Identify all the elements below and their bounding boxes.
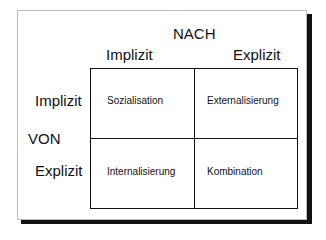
nach-label: NACH bbox=[173, 25, 216, 42]
column-header-explizit: Explizit bbox=[233, 46, 281, 63]
von-label: VON bbox=[28, 130, 61, 147]
cell-sozialisation: Sozialisation bbox=[107, 95, 163, 106]
row-header-explizit: Explizit bbox=[35, 162, 83, 179]
cell-kombination: Kombination bbox=[207, 166, 263, 177]
cell-externalisierung: Externalisierung bbox=[207, 95, 279, 106]
column-header-implizit: Implizit bbox=[106, 46, 153, 63]
cell-internalisierung: Internalisierung bbox=[107, 166, 175, 177]
row-header-implizit: Implizit bbox=[35, 92, 82, 109]
grid-divider-horizontal bbox=[91, 138, 297, 139]
matrix-grid: Sozialisation Externalisierung Internali… bbox=[90, 68, 298, 209]
